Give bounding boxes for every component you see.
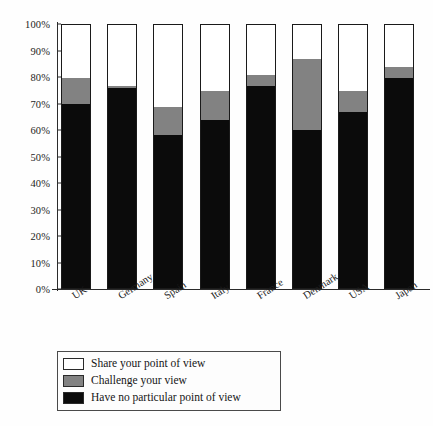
- y-axis-tick-label: 100%: [25, 19, 57, 30]
- plot-area: 0%10%20%30%40%50%60%70%80%90%100%: [57, 24, 426, 289]
- bar-segment-challenge: [385, 67, 413, 78]
- bar-segment-no-particular-view: [247, 86, 275, 289]
- legend-item: Have no particular point of view: [63, 389, 276, 406]
- y-axis-tick-label: 50%: [30, 151, 57, 162]
- bar-segment-challenge: [62, 78, 90, 104]
- legend-item: Share your point of view: [63, 355, 276, 372]
- chart-legend: Share your point of viewChallenge your v…: [57, 351, 281, 411]
- bar-germany: [107, 24, 137, 289]
- bar-spain: [153, 24, 183, 289]
- bar-segment-challenge: [247, 75, 275, 86]
- bar-segment-no-particular-view: [154, 135, 182, 288]
- legend-label: Challenge your view: [91, 375, 187, 387]
- bar-france: [246, 24, 276, 289]
- bar-segment-challenge: [201, 91, 229, 120]
- y-axis-tick-label: 70%: [30, 98, 57, 109]
- bar-usa: [338, 24, 368, 289]
- legend-item: Challenge your view: [63, 372, 276, 389]
- bar-segment-challenge: [154, 107, 182, 136]
- y-axis-tick-label: 40%: [30, 178, 57, 189]
- bar-group: [57, 24, 426, 289]
- legend-label: Share your point of view: [91, 358, 205, 370]
- bar-segment-challenge: [293, 59, 321, 130]
- bar-segment-no-particular-view: [62, 104, 90, 288]
- bar-segment-no-particular-view: [339, 112, 367, 288]
- bar-segment-no-particular-view: [385, 78, 413, 288]
- legend-swatch: [63, 392, 84, 404]
- legend-swatch: [63, 358, 84, 370]
- y-axis-tick-label: 90%: [30, 45, 57, 56]
- bar-segment-no-particular-view: [201, 120, 229, 288]
- x-axis-line: [52, 289, 430, 290]
- y-axis-tick-label: 30%: [30, 204, 57, 215]
- bar-denmark: [292, 24, 322, 289]
- y-axis-tick-label: 60%: [30, 125, 57, 136]
- y-axis-tick-label: 10%: [30, 257, 57, 268]
- legend-label: Have no particular point of view: [91, 392, 241, 404]
- y-axis-tick-label: 20%: [30, 231, 57, 242]
- legend-swatch: [63, 375, 84, 387]
- bar-segment-challenge: [339, 91, 367, 112]
- y-axis-tick-label: 80%: [30, 72, 57, 83]
- y-axis-tick-label: 0%: [36, 284, 57, 295]
- bar-segment-no-particular-view: [293, 130, 321, 288]
- bar-uk: [61, 24, 91, 289]
- bar-italy: [200, 24, 230, 289]
- bar-japan: [384, 24, 414, 289]
- stacked-bar-chart: 0%10%20%30%40%50%60%70%80%90%100% UKGerm…: [0, 0, 433, 426]
- bar-segment-no-particular-view: [108, 88, 136, 288]
